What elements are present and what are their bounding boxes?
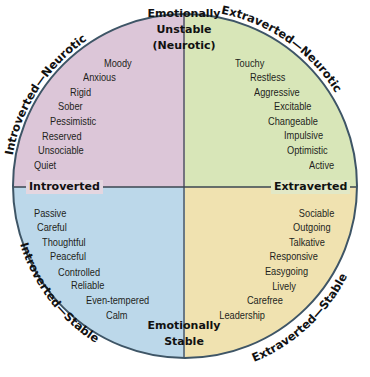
- trait-responsive: Responsive: [270, 250, 318, 262]
- trait-easygoing: Easygoing: [265, 265, 308, 277]
- axis-label-line: Unstable: [134, 22, 234, 38]
- trait-reserved: Reserved: [42, 130, 82, 142]
- axis-label-line: Stable: [134, 334, 234, 350]
- trait-calm: Calm: [106, 309, 128, 321]
- trait-outgoing: Outgoing: [293, 221, 331, 233]
- trait-even-tempered: Even-tempered: [86, 294, 149, 306]
- axis-label-emotionally-stable: Emotionally Stable: [134, 318, 234, 350]
- trait-impulsive: Impulsive: [284, 129, 323, 141]
- trait-talkative: Talkative: [289, 236, 325, 248]
- trait-reliable: Reliable: [71, 279, 104, 291]
- trait-active: Active: [309, 159, 334, 171]
- axis-label-emotionally-unstable: Emotionally Unstable (Neurotic): [134, 6, 234, 54]
- trait-pessimistic: Pessimistic: [50, 115, 96, 127]
- trait-moody: Moody: [104, 57, 132, 69]
- trait-unsociable: Unsociable: [38, 144, 84, 156]
- trait-touchy: Touchy: [235, 57, 264, 69]
- trait-leadership: Leadership: [219, 309, 265, 321]
- trait-controlled: Controlled: [58, 266, 100, 278]
- trait-carefree: Carefree: [247, 294, 283, 306]
- trait-sober: Sober: [58, 100, 83, 112]
- trait-restless: Restless: [250, 71, 285, 83]
- axis-label-line: Emotionally: [134, 6, 234, 22]
- trait-careful: Careful: [37, 221, 67, 233]
- trait-sociable: Sociable: [299, 207, 334, 219]
- axis-label-introverted: Introverted: [26, 180, 103, 194]
- trait-optimistic: Optimistic: [287, 144, 328, 156]
- trait-peaceful: Peaceful: [50, 250, 86, 262]
- personality-circle-diagram: Introverted—Neurotic Extraverted—Neuroti…: [0, 0, 370, 377]
- trait-thoughtful: Thoughtful: [42, 236, 86, 248]
- trait-changeable: Changeable: [268, 115, 318, 127]
- trait-aggressive: Aggressive: [254, 86, 300, 98]
- trait-lively: Lively: [272, 280, 296, 292]
- trait-excitable: Excitable: [274, 100, 311, 112]
- trait-rigid: Rigid: [70, 86, 91, 98]
- axis-label-line: (Neurotic): [134, 38, 234, 54]
- trait-quiet: Quiet: [34, 159, 56, 171]
- trait-passive: Passive: [34, 207, 66, 219]
- trait-anxious: Anxious: [83, 71, 116, 83]
- axis-label-extraverted: Extraverted: [271, 180, 350, 194]
